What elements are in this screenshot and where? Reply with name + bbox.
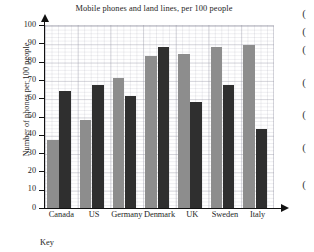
y-tick-mark (39, 190, 45, 191)
y-axis-line (44, 20, 45, 209)
margin-mark: ( (298, 44, 310, 55)
margin-mark: ( (298, 109, 310, 120)
y-tick-label: 20 (0, 166, 36, 175)
bar-group (110, 26, 143, 208)
y-tick-mark (39, 208, 45, 209)
y-axis-labels: 1009080706050403020100 (0, 0, 36, 252)
bar-uk-mobile (178, 54, 190, 208)
y-axis-arrow-icon (41, 14, 49, 22)
key-label: Key (40, 238, 54, 247)
bar-canada-mobile (47, 140, 59, 208)
y-tick-label: 10 (0, 184, 36, 193)
y-tick-label: 0 (0, 203, 36, 212)
y-tick-mark (39, 80, 45, 81)
margin-marks: ((((((( (298, 0, 312, 252)
bar-italy-landline (256, 129, 268, 208)
y-tick-label: 40 (0, 129, 36, 138)
margin-mark: ( (298, 26, 310, 37)
bar-group (143, 26, 176, 208)
y-tick-mark (39, 153, 45, 154)
margin-mark: ( (298, 77, 310, 88)
x-tick-label-italy: Italy (233, 210, 282, 219)
bar-germany-mobile (113, 78, 125, 208)
y-tick-label: 70 (0, 75, 36, 84)
chart-title: Mobile phones and land lines, per 100 pe… (56, 4, 252, 13)
chart-page: Mobile phones and land lines, per 100 pe… (0, 0, 314, 252)
plot-area (45, 25, 274, 208)
y-tick-label: 60 (0, 93, 36, 102)
y-tick-label: 30 (0, 148, 36, 157)
y-tick-mark (39, 98, 45, 99)
bar-uk-landline (190, 102, 202, 208)
bar-canada-landline (59, 91, 71, 208)
bar-us-mobile (80, 120, 92, 208)
y-tick-mark (39, 62, 45, 63)
y-tick-mark (39, 171, 45, 172)
x-axis-line (44, 208, 282, 209)
y-tick-label: 50 (0, 111, 36, 120)
bar-group (209, 26, 242, 208)
x-axis-labels: CanadaUSGermanyDenmarkUKSwedenItaly (45, 210, 283, 226)
bar-denmark-landline (158, 47, 170, 208)
bar-group (176, 26, 209, 208)
y-tick-mark (39, 43, 45, 44)
margin-mark: ( (298, 142, 310, 153)
margin-mark: ( (298, 179, 310, 190)
bar-group (241, 26, 274, 208)
bar-us-landline (92, 85, 104, 208)
y-tick-mark (39, 117, 45, 118)
bar-sweden-landline (223, 85, 235, 208)
margin-mark: ( (298, 8, 310, 19)
y-tick-mark (39, 25, 45, 26)
bar-group (78, 26, 111, 208)
y-tick-mark (39, 135, 45, 136)
bar-italy-mobile (243, 45, 255, 208)
y-tick-label: 100 (0, 20, 36, 29)
bar-germany-landline (125, 96, 137, 208)
bar-group (45, 26, 78, 208)
bar-denmark-mobile (145, 56, 157, 208)
y-tick-label: 90 (0, 38, 36, 47)
bar-sweden-mobile (211, 47, 223, 208)
y-tick-label: 80 (0, 56, 36, 65)
